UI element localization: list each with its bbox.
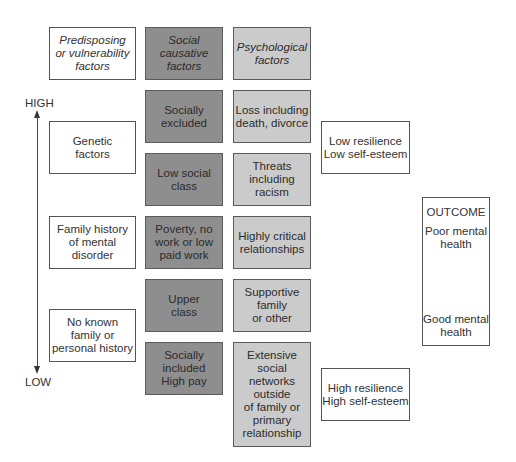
social-low-class: Low social class	[145, 153, 223, 206]
header-predisposing: Predisposing or vulnerability factors	[49, 27, 136, 80]
psych-threats: Threats including racism	[233, 153, 311, 206]
low-resilience-box: Low resilience Low self-esteem	[321, 121, 410, 174]
predisposing-no-history: No known family or personal history	[49, 309, 136, 362]
psych-loss: Loss including death, divorce	[233, 90, 311, 143]
high-resilience-box: High resilience High self-esteem	[321, 368, 410, 421]
outcome-box: OUTCOME Poor mental health Good mental h…	[422, 197, 490, 346]
outcome-good: Good mental health	[423, 313, 489, 339]
outcome-title: OUTCOME	[423, 206, 489, 219]
psych-supportive: Supportive family or other	[233, 279, 311, 332]
social-upper-class: Upper class	[145, 279, 223, 332]
header-psychological: Psychological factors	[233, 27, 311, 80]
psych-critical: Highly critical relationships	[233, 216, 311, 269]
social-poverty: Poverty, no work or low paid work	[145, 216, 223, 269]
arrow-down-icon	[34, 366, 40, 374]
outcome-poor: Poor mental health	[423, 225, 489, 251]
psych-networks: Extensive social networks outside of fam…	[233, 342, 311, 447]
predisposing-family-history: Family history of mental disorder	[49, 216, 136, 269]
header-social: Social causative factors	[145, 27, 223, 80]
vertical-axis-line	[37, 116, 38, 370]
high-label: HIGH	[25, 97, 54, 109]
predisposing-genetic: Genetic factors	[49, 121, 136, 174]
low-label: LOW	[25, 376, 51, 388]
social-included: Socially included High pay	[145, 342, 223, 395]
social-excluded: Socially excluded	[145, 90, 223, 143]
